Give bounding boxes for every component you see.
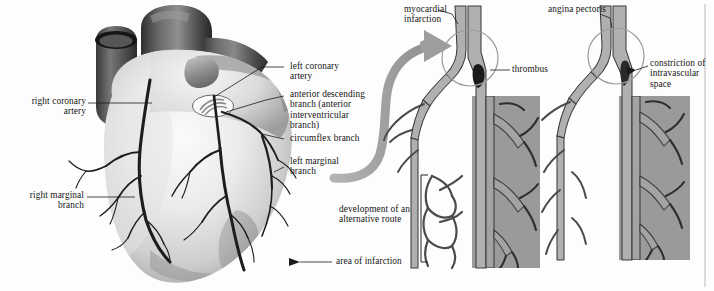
arrowhead-area-of-infarction [289,258,300,266]
label-area-of-infarction: area of infarction [336,256,428,266]
rca-branch-a2 [86,166,106,171]
label-anterior-descending-branch: anterior descending branch (anterior int… [290,89,370,131]
panel-myocardial-infarction [384,6,540,268]
main-trunk-1-right [468,6,486,268]
heart-illustration [69,5,302,283]
illustration-artwork [0,0,714,291]
svc-lumen-inner [100,35,133,48]
label-right-marginal-branch: right marginal branch [2,190,84,211]
label-constriction-of-intravascular-space: constriction of intravascular space [650,58,714,89]
figure-canvas: right coronary artery right marginal bra… [0,0,714,291]
branch-1a [423,74,452,106]
branch-2a [569,72,597,104]
transition-arrowhead [420,30,452,62]
label-myocardial-infarction: myocardial infarction [404,4,486,25]
label-left-coronary-artery: left coronary artery [290,61,362,82]
panel-angina-pectoris [542,4,705,287]
rca-branch-a3 [69,161,86,171]
label-right-coronary-artery: right coronary artery [2,96,86,117]
label-left-marginal-branch: left marginal branch [290,156,364,177]
label-circumflex-branch: circumflex branch [290,133,376,143]
main-trunk-2-right [613,6,632,260]
label-angina-pectoris: angina pectoris [548,4,638,14]
rca-branch-a4 [76,171,86,188]
label-development-of-alternative-route: development of an alternative route [339,204,435,225]
branch-1b-tail [411,138,418,268]
label-thrombus: thrombus [512,64,572,74]
